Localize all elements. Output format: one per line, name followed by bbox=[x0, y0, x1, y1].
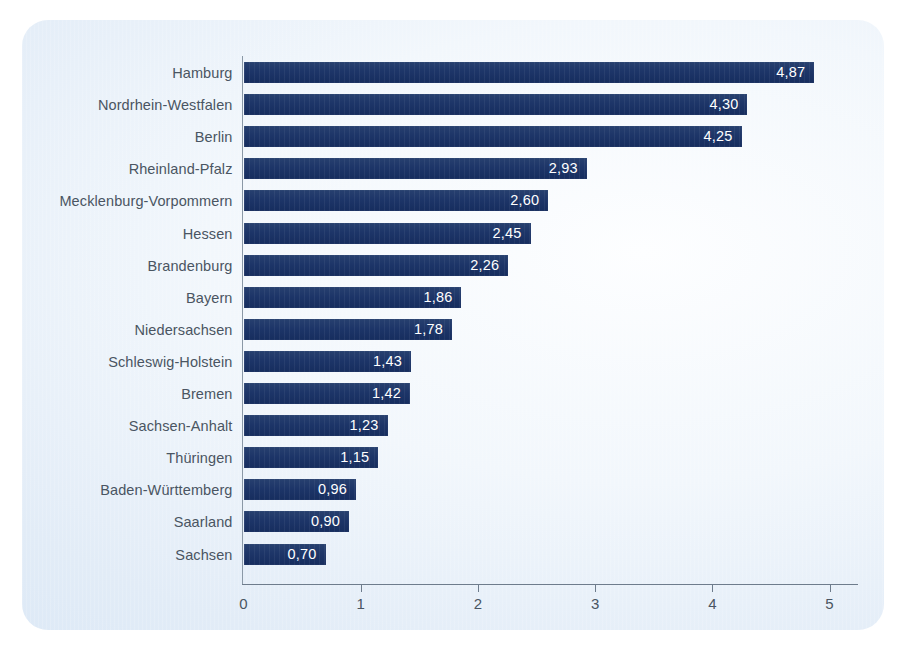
bar: 2,45 bbox=[244, 223, 531, 244]
bar-row: Brandenburg2,26 bbox=[0, 255, 907, 287]
plot-area: Hamburg4,87Nordrhein-Westfalen4,30Berlin… bbox=[0, 0, 907, 649]
category-label: Sachsen bbox=[175, 544, 232, 566]
bar: 1,42 bbox=[244, 383, 410, 404]
bar-value-label: 1,23 bbox=[350, 415, 379, 436]
bar-value-label: 0,70 bbox=[288, 544, 317, 565]
bar-value-label: 1,86 bbox=[423, 287, 452, 308]
bar-row: Niedersachsen1,78 bbox=[0, 319, 907, 351]
bar-row: Baden-Württemberg0,96 bbox=[0, 479, 907, 511]
bar-value-label: 2,26 bbox=[470, 255, 499, 276]
bar-value-label: 1,42 bbox=[372, 383, 401, 404]
bar: 4,25 bbox=[244, 126, 742, 147]
bar: 1,43 bbox=[244, 351, 412, 372]
bar-row: Rheinland-Pfalz2,93 bbox=[0, 158, 907, 190]
category-label: Hessen bbox=[183, 223, 233, 245]
x-axis-tick-label: 5 bbox=[810, 595, 850, 612]
bar-value-label: 1,78 bbox=[414, 319, 443, 340]
bar: 0,90 bbox=[244, 511, 349, 532]
bar-value-label: 4,87 bbox=[776, 62, 805, 83]
category-label: Berlin bbox=[195, 126, 233, 148]
category-label: Brandenburg bbox=[148, 255, 233, 277]
bar-value-label: 0,96 bbox=[318, 479, 347, 500]
category-label: Sachsen-Anhalt bbox=[129, 415, 233, 437]
bar-value-label: 1,15 bbox=[340, 447, 369, 468]
x-axis-tick-label: 3 bbox=[575, 595, 615, 612]
x-axis-line bbox=[242, 584, 858, 585]
bar-value-label: 4,25 bbox=[704, 126, 733, 147]
x-axis-tick bbox=[830, 585, 831, 592]
bar-row: Hamburg4,87 bbox=[0, 62, 907, 94]
bar: 1,86 bbox=[244, 287, 462, 308]
bar: 4,87 bbox=[244, 62, 815, 83]
bar-row: Schleswig-Holstein1,43 bbox=[0, 351, 907, 383]
bar: 4,30 bbox=[244, 94, 748, 115]
bar-row: Berlin4,25 bbox=[0, 126, 907, 158]
x-axis-tick-label: 1 bbox=[341, 595, 381, 612]
bar-row: Nordrhein-Westfalen4,30 bbox=[0, 94, 907, 126]
bar-value-label: 4,30 bbox=[709, 94, 738, 115]
bar-row: Mecklenburg-Vorpommern2,60 bbox=[0, 190, 907, 222]
bar: 1,15 bbox=[244, 447, 379, 468]
bar: 0,96 bbox=[244, 479, 357, 500]
bar-row: Hessen2,45 bbox=[0, 223, 907, 255]
category-label: Rheinland-Pfalz bbox=[129, 158, 233, 180]
bar-value-label: 1,43 bbox=[373, 351, 402, 372]
bar-chart-figure: Hamburg4,87Nordrhein-Westfalen4,30Berlin… bbox=[0, 0, 907, 649]
category-label: Nordrhein-Westfalen bbox=[98, 94, 233, 116]
category-label: Saarland bbox=[174, 511, 233, 533]
bar-row: Saarland0,90 bbox=[0, 511, 907, 543]
bar: 1,78 bbox=[244, 319, 453, 340]
bar-row: Bayern1,86 bbox=[0, 287, 907, 319]
bar: 2,26 bbox=[244, 255, 509, 276]
category-label: Thüringen bbox=[166, 447, 232, 469]
x-axis-tick-label: 4 bbox=[692, 595, 732, 612]
bar-row: Thüringen1,15 bbox=[0, 447, 907, 479]
bar: 1,23 bbox=[244, 415, 388, 436]
category-label: Hamburg bbox=[172, 62, 232, 84]
bar-row: Sachsen0,70 bbox=[0, 544, 907, 576]
bar: 2,60 bbox=[244, 190, 549, 211]
category-label: Mecklenburg-Vorpommern bbox=[59, 190, 232, 212]
x-axis-tick bbox=[595, 585, 596, 592]
bar-value-label: 2,45 bbox=[493, 223, 522, 244]
bar-value-label: 2,60 bbox=[510, 190, 539, 211]
category-label: Baden-Württemberg bbox=[100, 479, 232, 501]
category-label: Niedersachsen bbox=[134, 319, 232, 341]
x-axis-tick-label: 2 bbox=[458, 595, 498, 612]
bar-row: Bremen1,42 bbox=[0, 383, 907, 415]
category-label: Schleswig-Holstein bbox=[108, 351, 232, 373]
y-axis-line bbox=[242, 56, 243, 584]
bar-row: Sachsen-Anhalt1,23 bbox=[0, 415, 907, 447]
bar: 2,93 bbox=[244, 158, 587, 179]
bar-value-label: 0,90 bbox=[311, 511, 340, 532]
x-axis-tick bbox=[712, 585, 713, 592]
category-label: Bayern bbox=[186, 287, 233, 309]
x-axis-tick-label: 0 bbox=[224, 595, 264, 612]
bar-value-label: 2,93 bbox=[549, 158, 578, 179]
x-axis-tick bbox=[478, 585, 479, 592]
category-label: Bremen bbox=[181, 383, 232, 405]
bar: 0,70 bbox=[244, 544, 326, 565]
x-axis-tick bbox=[361, 585, 362, 592]
